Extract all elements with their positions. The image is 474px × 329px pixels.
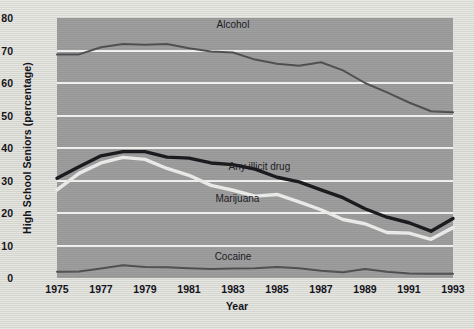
- series-line-alcohol: [57, 44, 453, 112]
- x-tick-label-1975: 1975: [34, 283, 80, 295]
- y-tick-label-40: 40: [0, 142, 13, 154]
- annotation-marijuana: Marijuana: [215, 193, 259, 204]
- y-tick-label-10: 10: [0, 240, 13, 252]
- annotation-cocaine: Cocaine: [215, 251, 252, 262]
- x-tick-label-1983: 1983: [210, 283, 256, 295]
- x-tick-label-1991: 1991: [386, 283, 432, 295]
- x-tick-label-1993: 1993: [430, 283, 474, 295]
- x-tick-label-1981: 1981: [166, 283, 212, 295]
- y-tick-label-70: 70: [0, 45, 13, 57]
- y-tick-label-60: 60: [0, 77, 13, 89]
- annotation-alcohol: Alcohol: [217, 19, 250, 30]
- annotation-any-illicit-drug: Any illicit drug: [229, 161, 291, 172]
- x-tick-label-1979: 1979: [122, 283, 168, 295]
- y-tick-label-80: 80: [0, 12, 13, 24]
- y-axis-title: High School Seniors (percentage): [21, 43, 33, 253]
- y-tick-label-50: 50: [0, 110, 13, 122]
- series-lines: [57, 18, 453, 278]
- x-tick-label-1977: 1977: [78, 283, 124, 295]
- plot-area: AlcoholAny illicit drugMarijuanaCocaine: [57, 18, 453, 278]
- x-tick-label-1985: 1985: [254, 283, 300, 295]
- y-tick-label-30: 30: [0, 175, 13, 187]
- x-tick-label-1987: 1987: [298, 283, 344, 295]
- y-tick-label-20: 20: [0, 207, 13, 219]
- x-axis-title: Year: [0, 300, 474, 312]
- y-tick-label-0: 0: [0, 272, 13, 284]
- drug-use-line-chart: High School Seniors (percentage) Alcohol…: [0, 0, 474, 329]
- x-tick-label-1989: 1989: [342, 283, 388, 295]
- series-line-cocaine: [57, 265, 453, 273]
